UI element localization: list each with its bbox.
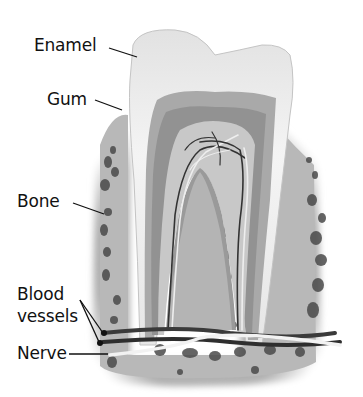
blood-vessels-label-line1: Blood — [17, 285, 64, 304]
blood-vessels-label-line2: vessels — [17, 307, 78, 326]
bone-label: Bone — [17, 192, 60, 211]
gum-label: Gum — [47, 90, 87, 109]
nerve-label: Nerve — [17, 344, 67, 363]
tooth — [130, 30, 294, 345]
enamel-label: Enamel — [34, 36, 96, 55]
gum-leader-line — [95, 100, 122, 110]
